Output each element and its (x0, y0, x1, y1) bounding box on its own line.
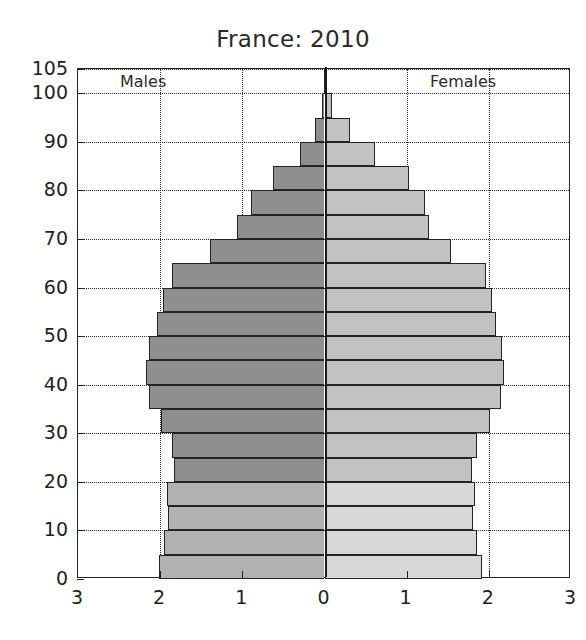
y-tick-label: 70 (0, 227, 68, 249)
bar-female-80-84 (325, 166, 410, 190)
y-tick-label: 10 (0, 518, 68, 540)
y-tick-label: 80 (0, 178, 68, 200)
bar-female-70-74 (325, 215, 429, 239)
y-tickmark (77, 385, 84, 386)
x-tick-label: 1 (400, 586, 412, 608)
bar-male-10-14 (168, 506, 324, 530)
males-legend-label: Males (120, 72, 166, 91)
bar-female-45-49 (325, 336, 502, 360)
bar-male-75-79 (251, 190, 325, 214)
bar-male-5-9 (164, 530, 324, 554)
bar-male-80-84 (273, 166, 325, 190)
y-tick-label: 60 (0, 276, 68, 298)
bar-male-55-59 (163, 288, 324, 312)
bar-female-0-4 (325, 555, 483, 579)
x-tick-label: 2 (153, 586, 165, 608)
bar-female-20-24 (325, 458, 472, 482)
bar-female-50-54 (325, 312, 497, 336)
x-tickmark (407, 571, 408, 578)
y-tick-label: 30 (0, 421, 68, 443)
bar-female-15-19 (325, 482, 475, 506)
bar-female-60-64 (325, 263, 487, 287)
y-tickmark (77, 433, 84, 434)
bar-male-25-29 (172, 433, 324, 457)
bar-male-50-54 (157, 312, 325, 336)
bar-female-40-44 (325, 360, 505, 384)
x-tick-label: 2 (482, 586, 494, 608)
x-tickmark (489, 571, 490, 578)
bar-female-25-29 (325, 433, 477, 457)
y-tickmark (77, 482, 84, 483)
y-tick-label: 50 (0, 324, 68, 346)
females-legend-label: Females (430, 72, 496, 91)
population-pyramid-figure: France: 2010 0102030405060708090100105 3… (0, 0, 586, 640)
bar-male-85-89 (300, 142, 325, 166)
bar-male-35-39 (149, 385, 324, 409)
y-tick-label: 100 (0, 81, 68, 103)
bar-female-55-59 (325, 288, 493, 312)
y-tickmark (77, 69, 84, 70)
x-tickmark (242, 571, 243, 578)
x-tick-label: 0 (317, 586, 329, 608)
y-tickmark (77, 288, 84, 289)
y-tickmark (77, 93, 84, 94)
chart-title: France: 2010 (0, 26, 586, 52)
bar-female-30-34 (325, 409, 490, 433)
x-tick-label: 3 (564, 586, 576, 608)
bar-male-65-69 (210, 239, 324, 263)
bar-female-65-69 (325, 239, 452, 263)
bar-male-30-34 (161, 409, 325, 433)
x-tickmark (160, 571, 161, 578)
bar-female-5-9 (325, 530, 478, 554)
bar-male-90-94 (315, 118, 325, 142)
bar-male-45-49 (149, 336, 324, 360)
y-tick-label: 20 (0, 470, 68, 492)
y-tickmark (77, 530, 84, 531)
y-tickmark (77, 239, 84, 240)
bar-male-20-24 (174, 458, 324, 482)
x-tick-label: 3 (71, 586, 83, 608)
bar-female-90-94 (325, 118, 350, 142)
bar-female-85-89 (325, 142, 375, 166)
y-tickmark (77, 190, 84, 191)
bar-male-60-64 (172, 263, 324, 287)
bar-male-70-74 (237, 215, 325, 239)
y-tickmark (77, 336, 84, 337)
y-tickmark (77, 579, 84, 580)
bar-male-40-44 (146, 360, 324, 384)
x-axis-tick-labels: 3210123 (0, 586, 586, 618)
center-axis-line (325, 67, 327, 577)
x-tick-label: 1 (235, 586, 247, 608)
bar-male-15-19 (167, 482, 325, 506)
y-tick-label: 105 (0, 57, 68, 79)
y-tick-label: 90 (0, 130, 68, 152)
bar-female-10-14 (325, 506, 474, 530)
y-tick-label: 40 (0, 373, 68, 395)
y-tickmark (77, 142, 84, 143)
bar-female-35-39 (325, 385, 502, 409)
bar-female-75-79 (325, 190, 425, 214)
